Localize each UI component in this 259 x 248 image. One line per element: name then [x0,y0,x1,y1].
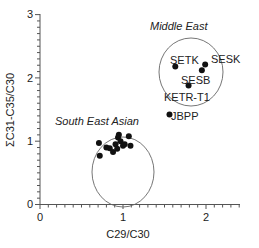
data-point [122,141,128,147]
data-point [127,143,133,149]
point-label-setk: SETK [170,54,199,66]
y-axis [35,14,40,205]
y-tick-label: 3 [27,8,33,20]
chart-canvas: 3 2 1 0 0 1 2 C29/C30 ΣC31-C35/C30 Middl… [0,0,259,248]
data-point [202,62,208,68]
data-point [97,153,103,159]
y-tick-label: 0 [27,198,33,210]
x-axis-title: C29/C30 [106,228,149,240]
point-label-sesk: SESK [211,53,241,65]
group-label-se-asian: South East Asian [55,115,139,127]
x-tick-label: 0 [37,211,43,223]
y-tick-label: 2 [27,72,33,84]
x-tick-label: 2 [203,211,209,223]
x-tick-label: 1 [120,211,126,223]
point-label-jbpp: JBPP [171,110,199,122]
x-axis [40,205,240,210]
y-tick-label: 1 [27,135,33,147]
data-point [96,140,102,146]
point-label-sesb: SESB [181,74,210,86]
scatter-chart: 3 2 1 0 0 1 2 C29/C30 ΣC31-C35/C30 Middl… [0,0,259,248]
y-axis-title: ΣC31-C35/C30 [4,73,16,147]
point-label-ketr: KETR-T1 [164,91,210,103]
group-label-middle-east: Middle East [150,20,208,32]
data-point [126,133,132,139]
data-point [114,146,120,152]
data-point [199,67,205,73]
data-point [116,132,122,138]
